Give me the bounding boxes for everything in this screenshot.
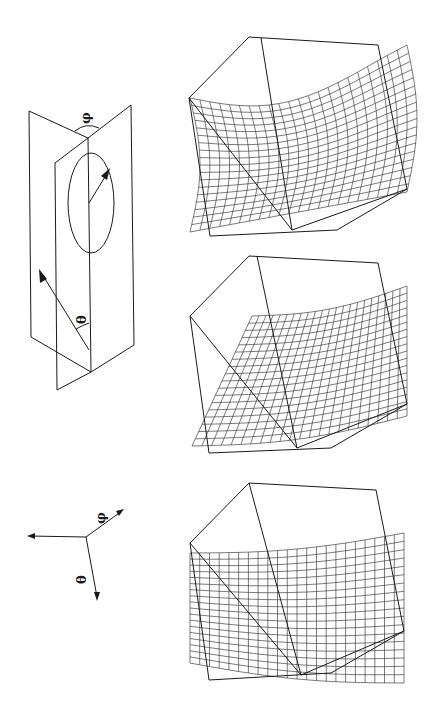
plane-front — [55, 138, 91, 390]
cube-edge — [249, 256, 378, 263]
surface-mesh-line — [338, 83, 348, 205]
surface-mesh-line — [202, 316, 259, 446]
axis-left — [30, 536, 86, 537]
spin-arrow-head — [101, 168, 110, 180]
surface-mesh-line — [319, 306, 344, 436]
cube-edge — [297, 404, 407, 448]
theta-label: θ — [74, 315, 89, 324]
surface-mesh-line — [318, 92, 328, 209]
cube-edge — [261, 38, 292, 230]
cube-edge — [337, 189, 407, 230]
cube-panel-middle — [190, 256, 407, 453]
surface-mesh-line — [221, 315, 273, 445]
cube-edge — [189, 37, 249, 98]
axis-theta-arrowhead — [94, 592, 100, 601]
plane-intersection-line — [88, 138, 91, 372]
axis-phi-label: φ — [93, 512, 108, 524]
surface-mesh-line — [397, 50, 407, 194]
surface-mesh-line — [377, 61, 387, 198]
surface-mesh-line — [198, 151, 415, 195]
cube-edge — [249, 37, 378, 45]
cube-edge — [190, 543, 301, 675]
surface-mesh-line — [231, 315, 280, 445]
axis-left-arrowhead — [27, 533, 35, 539]
surface-mesh-line — [309, 308, 336, 438]
circle — [68, 153, 114, 253]
surface-mesh-line — [378, 293, 386, 423]
cube-edge — [209, 448, 331, 453]
surface-mesh-line — [358, 72, 368, 201]
surface-mesh-line — [251, 314, 295, 444]
phi-label: φ — [78, 112, 93, 124]
cube-edge — [378, 263, 407, 404]
axis-theta-label: θ — [74, 575, 89, 584]
surface-mesh-line — [339, 302, 358, 432]
surface-mesh-line — [329, 304, 351, 434]
surface-mesh-line — [290, 310, 323, 440]
surface-mesh-line — [387, 55, 397, 195]
figure-canvas: θ φ φ θ — [0, 0, 427, 725]
surface-mesh-line — [308, 96, 318, 211]
surface-mesh-line — [280, 311, 315, 441]
phi-arc — [75, 126, 99, 131]
surface-mesh-line — [328, 87, 338, 206]
cube-panel-bottom — [190, 483, 404, 683]
surface-mesh-line — [190, 45, 407, 106]
surface-mesh-line — [388, 291, 393, 421]
surface-mesh-line — [358, 298, 372, 428]
axis-theta — [86, 537, 97, 597]
surface-mesh-line — [368, 296, 379, 426]
surface-mesh-line — [300, 309, 330, 439]
surface-mesh-line — [270, 312, 308, 442]
cube-edge — [249, 483, 376, 490]
surface-mesh-line — [192, 184, 409, 225]
cube-panel-top — [189, 37, 417, 236]
surface-mesh-line — [348, 78, 358, 203]
surface-mesh-line — [407, 45, 417, 192]
surface-mesh-line — [348, 300, 364, 430]
cube-edge — [210, 230, 337, 236]
surface-mesh-line — [299, 99, 309, 212]
surface-mesh-line — [212, 316, 267, 446]
plane-back — [29, 105, 134, 372]
axes-diagram: φ θ — [27, 509, 124, 601]
cube-edge — [209, 673, 331, 680]
cube-edge — [190, 256, 249, 316]
surface-mesh-line — [190, 98, 200, 232]
surface-mesh-line — [368, 67, 378, 200]
planes-diagram: θ φ — [29, 105, 134, 390]
vector-arrow — [42, 274, 89, 350]
cube-edge — [190, 483, 249, 543]
